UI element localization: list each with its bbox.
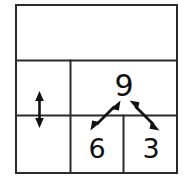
whole-number-9: 9 [114,71,133,101]
vertical-double-arrow-icon [35,91,44,128]
part-number-3: 3 [142,135,159,162]
part-number-6: 6 [88,135,105,162]
diagram-canvas: 9 6 3 [0,0,189,187]
